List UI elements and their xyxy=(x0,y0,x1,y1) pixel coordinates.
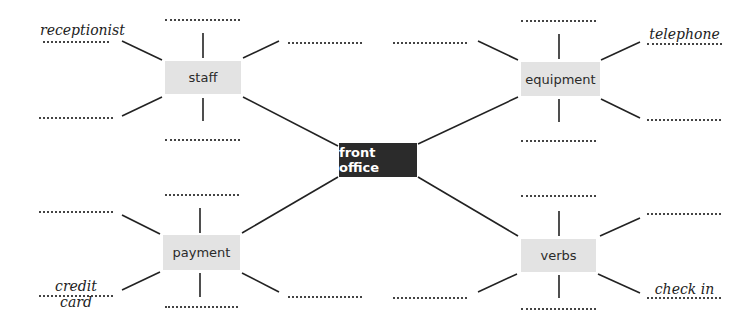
blank-payment-topleft[interactable] xyxy=(39,211,113,213)
blank-equipment-topleft[interactable] xyxy=(393,42,467,44)
center-node-label: front office xyxy=(339,145,417,175)
blank-payment-bottomright[interactable] xyxy=(288,296,362,298)
blank-staff-topright[interactable] xyxy=(288,42,362,44)
example-check-in: check in xyxy=(647,281,722,297)
node-label: verbs xyxy=(540,248,576,263)
node-equipment: equipment xyxy=(521,62,600,96)
node-verbs: verbs xyxy=(521,239,596,272)
blank-equipment-bottom[interactable] xyxy=(521,140,596,142)
blank-equipment-top[interactable] xyxy=(521,20,596,22)
example-receptionist: receptionist xyxy=(40,22,112,38)
blank-verbs-topright[interactable] xyxy=(647,213,721,215)
blank-staff-bottomleft[interactable] xyxy=(39,117,113,119)
blank-payment-bottom[interactable] xyxy=(165,306,238,308)
blank-payment-bottomleft xyxy=(39,295,113,297)
blank-verbs-bottomleft[interactable] xyxy=(393,297,467,299)
blank-equipment-bottomright[interactable] xyxy=(647,119,721,121)
blank-verbs-bottom[interactable] xyxy=(521,308,596,310)
blank-staff-top[interactable] xyxy=(165,19,240,21)
example-telephone: telephone xyxy=(647,26,722,42)
blank-staff-topleft xyxy=(43,41,109,43)
node-label: staff xyxy=(189,70,218,85)
example-credit-card: credit card xyxy=(38,278,114,310)
node-staff: staff xyxy=(165,61,241,94)
node-payment: payment xyxy=(163,235,240,270)
node-label: payment xyxy=(173,245,231,260)
node-label: equipment xyxy=(525,72,595,87)
blank-payment-top[interactable] xyxy=(165,194,239,196)
blank-verbs-bottomright xyxy=(647,297,721,299)
blank-staff-bottom[interactable] xyxy=(165,139,240,141)
center-node-front-office: front office xyxy=(339,143,417,177)
blank-equipment-topright xyxy=(647,43,722,45)
blank-verbs-top[interactable] xyxy=(521,195,596,197)
